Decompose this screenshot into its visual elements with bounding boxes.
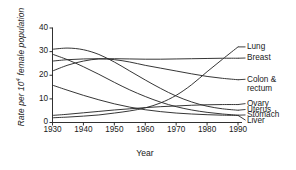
series-label-liver: Liver (247, 116, 265, 125)
series-labels: LungBreastColon &rectumOvaryUterusStomac… (0, 0, 296, 170)
series-label-lung: Lung (247, 42, 265, 51)
series-label-breast: Breast (247, 53, 271, 62)
chart-figure: Rate per 104 female population 010203040… (0, 0, 296, 170)
series-label-colon-rectum: Colon &rectum (247, 75, 276, 93)
